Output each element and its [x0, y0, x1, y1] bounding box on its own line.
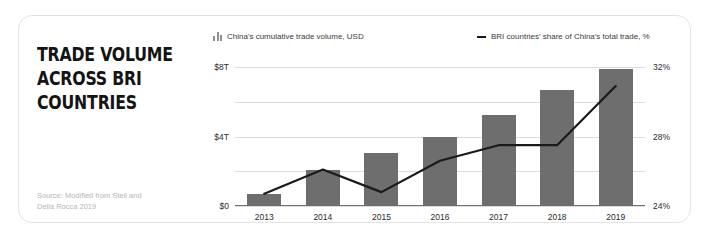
source-note: Source: Modified from Steil and Della Ro…: [37, 190, 197, 212]
x-axis-tick: 2016: [431, 212, 450, 222]
y-axis-right-tick: 32%: [653, 62, 670, 72]
y-axis-right-tick: 24%: [653, 201, 670, 211]
legend-bars-label: China's cumulative trade volume, USD: [227, 32, 364, 41]
legend-line-label: BRI countries' share of China's total tr…: [491, 32, 650, 41]
x-axis-tick: 2017: [489, 212, 508, 222]
page-title: TRADE VOLUME ACROSS BRI COUNTRIES: [37, 42, 184, 114]
legend-item-bars: China's cumulative trade volume, USD: [213, 32, 364, 41]
chart-card: TRADE VOLUME ACROSS BRI COUNTRIES Source…: [18, 15, 691, 223]
x-axis-tick: 2019: [606, 212, 625, 222]
x-axis-tick: 2014: [313, 212, 332, 222]
chart-legend: China's cumulative trade volume, USD BRI…: [205, 32, 685, 48]
title-panel: TRADE VOLUME ACROSS BRI COUNTRIES Source…: [37, 42, 197, 212]
gridline: [235, 206, 645, 207]
x-axis-tick: 2015: [372, 212, 391, 222]
y-axis-right-tick: 28%: [653, 132, 670, 142]
y-axis-left-tick: $4T: [214, 132, 229, 142]
plot-area: $0$4T$8T 24%28%32% 201320142015201620172…: [235, 67, 645, 206]
y-axis-left-tick: $8T: [214, 62, 229, 72]
chart-panel: China's cumulative trade volume, USD BRI…: [205, 22, 685, 222]
line-path: [264, 86, 615, 194]
x-axis-line: [235, 205, 645, 206]
y-axis-left-tick: $0: [220, 201, 229, 211]
x-axis-tick: 2018: [548, 212, 567, 222]
line-series: [235, 67, 645, 206]
legend-item-line: BRI countries' share of China's total tr…: [477, 32, 650, 41]
line-dash-icon: [477, 36, 486, 38]
x-axis-tick: 2013: [255, 212, 274, 222]
bar-chart-icon: [213, 32, 222, 41]
